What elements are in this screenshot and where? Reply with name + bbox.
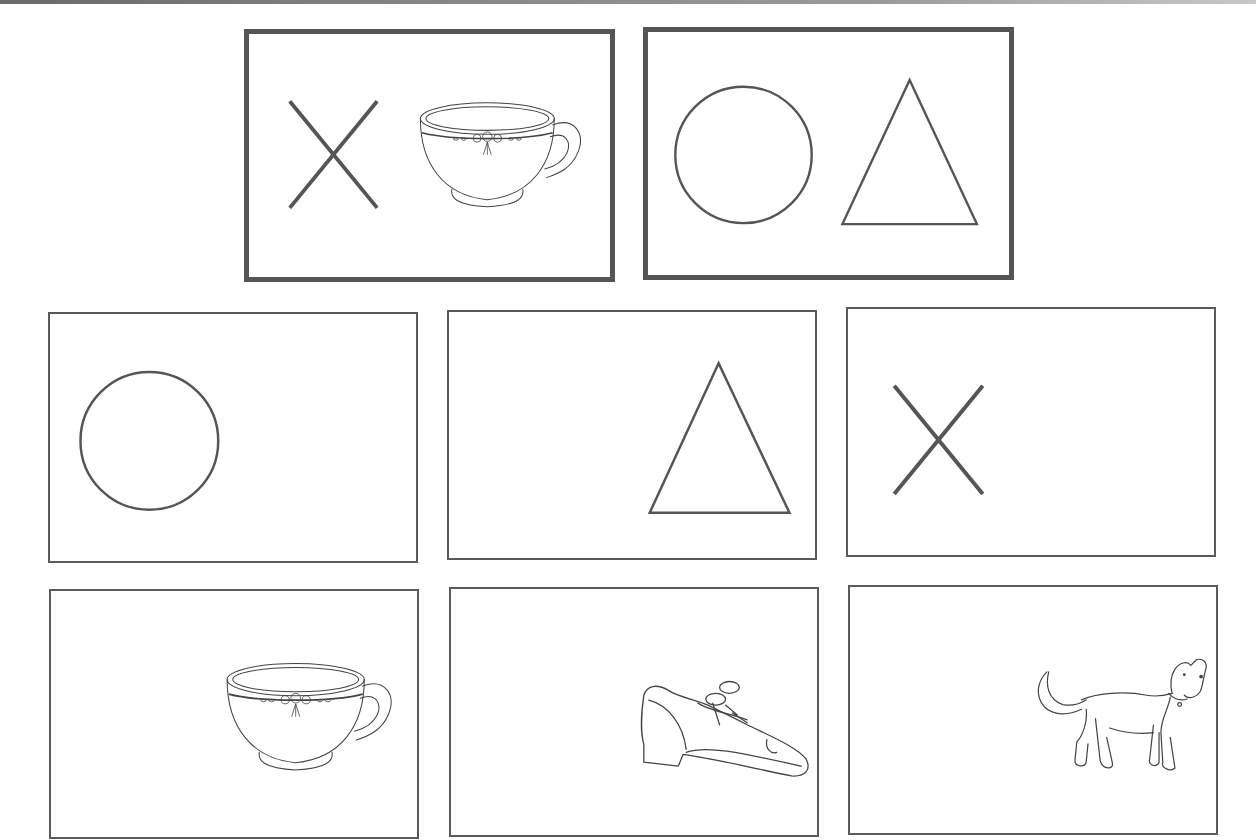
- choice-card-teacup[interactable]: [49, 589, 419, 839]
- target-card-x-cup[interactable]: [244, 29, 615, 282]
- choice-card-circle[interactable]: [48, 312, 418, 563]
- choice-card-dog[interactable]: [848, 585, 1218, 835]
- scan-edge-band: [0, 0, 1256, 4]
- target-card-circle-triangle[interactable]: [643, 27, 1014, 280]
- triangle-icon: [449, 312, 815, 558]
- x-mark-icon: [848, 309, 1214, 555]
- circle-icon: [50, 314, 416, 561]
- choice-card-triangle[interactable]: [447, 310, 817, 560]
- triangle-icon: [648, 32, 1009, 275]
- teacup-icon: [249, 34, 610, 277]
- choice-card-shoe[interactable]: [449, 587, 819, 837]
- shoe-icon: [451, 589, 817, 835]
- dog-icon: [850, 587, 1216, 833]
- choice-card-x-mark[interactable]: [846, 307, 1216, 557]
- teacup-icon: [51, 591, 417, 837]
